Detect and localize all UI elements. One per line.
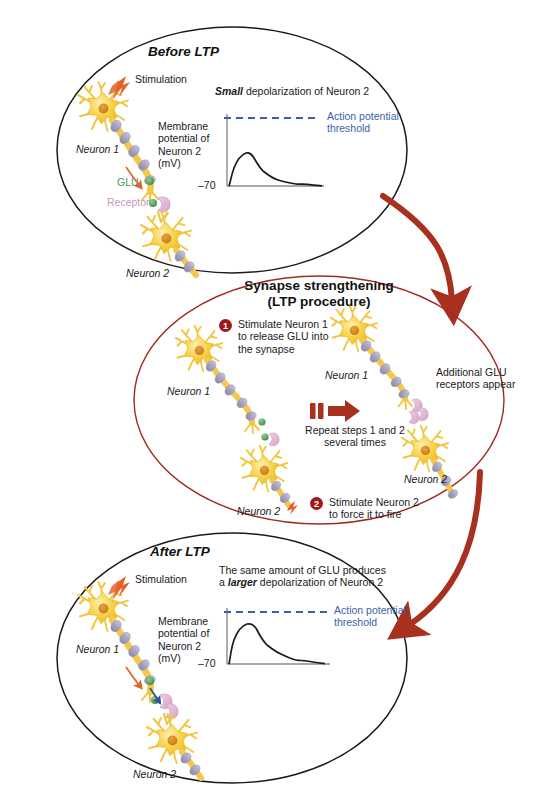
- before-neuron2-label: Neuron 2: [126, 267, 169, 279]
- before-chart-caption-rest: depolarization of Neuron 2: [243, 85, 369, 97]
- middle-left-neuron1-label: Neuron 1: [167, 385, 210, 397]
- middle-left-neuron2-label: Neuron 2: [237, 505, 280, 517]
- glu-molecule: [261, 433, 268, 440]
- before-chart-caption-emphasis: Small: [215, 85, 243, 97]
- after-threshold-label: Action potentialthreshold: [334, 604, 406, 629]
- after-neuron1-label: Neuron 1: [76, 643, 119, 655]
- middle-right-neuron1-label: Neuron 1: [325, 369, 368, 381]
- before-y-tick-label: –70: [198, 179, 216, 191]
- middle-right-neuron2-label: Neuron 2: [404, 473, 447, 485]
- before-y-axis-label: Membranepotential ofNeuron 2(mV): [158, 120, 209, 170]
- after-stimulation-label: Stimulation: [135, 573, 187, 585]
- before-chart-caption: Small depolarization of Neuron 2: [215, 85, 369, 97]
- diagram-artwork: [0, 0, 544, 807]
- step-1-text: Stimulate Neuron 1to release GLU intothe…: [238, 318, 328, 355]
- middle-panel-title-line2: (LTP procedure): [219, 294, 419, 310]
- middle-panel-title-line1: Synapse strengthening: [219, 278, 419, 294]
- step-1-badge: 1: [219, 319, 232, 332]
- glu-molecule: [149, 199, 157, 207]
- before-threshold-label: Action potentialthreshold: [327, 110, 399, 135]
- additional-receptors-text: Additional GLUreceptors appear: [436, 366, 515, 391]
- before-stimulation-label: Stimulation: [135, 73, 187, 85]
- after-neuron2-label: Neuron 2: [133, 768, 176, 780]
- before-neuron1-label: Neuron 1: [76, 143, 119, 155]
- after-y-tick-label: –70: [198, 657, 216, 669]
- after-chart-caption: The same amount of GLU producesa larger …: [219, 564, 386, 589]
- repeat-steps-text: Repeat steps 1 and 2several times: [296, 424, 414, 449]
- before-panel-title: Before LTP: [148, 44, 219, 60]
- step-2-text: Stimulate Neuron 2to force it to fire: [329, 496, 419, 521]
- figure-canvas: Before LTP Stimulation Neuron 1 GLU Rece…: [0, 0, 544, 807]
- glu-molecule: [146, 177, 154, 185]
- glu-molecule: [258, 418, 265, 425]
- after-panel-title: After LTP: [150, 544, 210, 560]
- glu-molecule: [146, 677, 154, 685]
- step-2-badge: 2: [310, 497, 323, 510]
- before-glu-label: GLU: [117, 176, 139, 188]
- before-receptor-label: Receptor: [107, 196, 150, 208]
